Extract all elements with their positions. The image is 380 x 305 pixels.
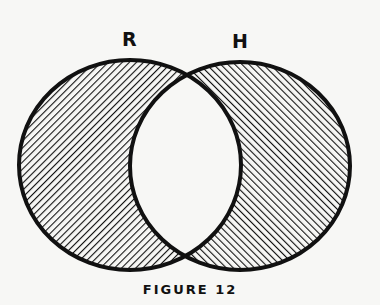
set-label-r: R <box>122 28 137 50</box>
set-label-h: H <box>232 30 248 52</box>
figure-caption: FIGURE 12 <box>0 282 380 297</box>
venn-diagram <box>0 0 380 305</box>
